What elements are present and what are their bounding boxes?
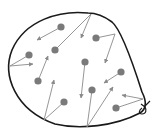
balloon <box>9 12 145 126</box>
gas-particle <box>25 51 32 58</box>
velocity-arrow <box>81 62 85 98</box>
balloon-outline <box>9 12 145 126</box>
gas-particle <box>60 98 67 105</box>
gas-particle <box>88 86 95 93</box>
velocity-arrow <box>37 27 61 40</box>
balloon-gas-diagram <box>0 0 162 137</box>
velocity-arrow <box>81 14 91 38</box>
velocity-arrow <box>44 102 64 120</box>
gas-particle <box>117 68 124 75</box>
gas-particle <box>81 58 88 65</box>
gas-particle <box>51 46 58 53</box>
velocity-arrow <box>87 90 92 127</box>
gas-particle <box>112 104 119 111</box>
velocity-arrow <box>38 56 48 81</box>
velocity-arrow <box>122 95 143 99</box>
gas-particle <box>34 77 41 84</box>
velocity-arrow <box>116 99 143 108</box>
velocity-arrow <box>44 80 54 120</box>
gas-particle <box>57 23 64 30</box>
gas-particles <box>25 23 124 111</box>
gas-particle <box>92 34 99 41</box>
velocity-arrow <box>105 34 115 63</box>
velocity-arrow <box>55 14 91 50</box>
